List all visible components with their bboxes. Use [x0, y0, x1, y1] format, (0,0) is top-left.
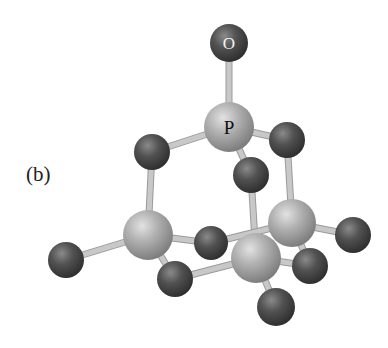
atom-label-P1: P [224, 117, 235, 138]
molecule-diagram: (b) OP [0, 0, 388, 348]
oxygen-atom-O10 [257, 288, 295, 326]
oxygen-atom-O9 [292, 248, 328, 284]
oxygen-atom-O2 [134, 134, 170, 170]
phosphorus-atom-P2 [123, 210, 173, 260]
oxygen-atom-O8 [335, 217, 371, 253]
molecule-structure: OP [0, 0, 388, 348]
oxygen-atom-O5 [48, 242, 84, 278]
atoms-layer: OP [48, 24, 371, 326]
oxygen-atom-O6 [194, 226, 228, 260]
phosphorus-atom-P3 [268, 199, 316, 247]
oxygen-atom-O7 [157, 261, 193, 297]
phosphorus-atom-P4 [231, 233, 281, 283]
oxygen-atom-O4 [233, 157, 269, 193]
oxygen-atom-O3 [269, 122, 305, 158]
atom-label-O1: O [223, 34, 235, 53]
